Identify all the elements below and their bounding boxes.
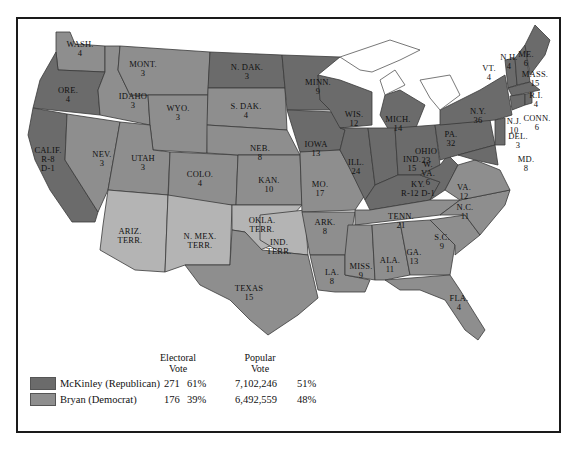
state-label: MINN. 9: [305, 78, 331, 96]
state-label: N.Y. 36: [470, 107, 486, 125]
state-label: LA. 8: [325, 268, 339, 286]
state-label: WIS. 12: [345, 110, 364, 128]
electoral-votes: 271: [164, 378, 184, 389]
democrat-swatch: [30, 393, 56, 406]
popular-votes: 6,492,559: [235, 394, 291, 405]
republican-swatch: [30, 377, 56, 390]
state-label: VA. 12: [457, 183, 471, 201]
state-label: CONN. 6: [523, 114, 550, 132]
state-label: DEL. 3: [508, 132, 527, 150]
candidate-name: McKinley (Republican): [60, 378, 164, 389]
state-label: MICH. 14: [385, 115, 410, 133]
popular-vote-header: Popular Vote: [230, 352, 290, 374]
state-label: IND. TERR.: [267, 238, 292, 256]
state-label: CALIF. R-8 D-1: [34, 146, 61, 173]
electoral-pct: 39%: [187, 394, 235, 405]
state-label: UTAH 3: [131, 154, 155, 172]
state-label: R.I. 4: [529, 91, 543, 109]
state-label: WYO. 3: [166, 104, 189, 122]
state-label: MO. 17: [312, 180, 328, 198]
electoral-votes: 176: [164, 394, 184, 405]
state-label: N. DAK. 3: [231, 63, 263, 81]
state-label: KAN. 10: [258, 176, 279, 194]
state-label: ME. 6: [518, 50, 533, 68]
state-label: IOWA 13: [305, 140, 328, 158]
state-label: NEB. 8: [250, 144, 270, 162]
state-label: PA. 32: [445, 130, 458, 148]
legend-row-bryan: Bryan (Democrat) 176 39% 6,492,559 48%: [30, 392, 316, 406]
popular-votes: 7,102,246: [235, 378, 291, 389]
state-label: ALA. 11: [380, 256, 400, 274]
state-label: MONT. 3: [129, 60, 157, 78]
popular-pct: 51%: [297, 378, 316, 389]
state-label: MISS. 9: [350, 262, 373, 280]
state-label: ARK. 8: [315, 218, 336, 236]
state-label: NEV. 3: [92, 150, 111, 168]
state-label: N. MEX. TERR.: [184, 232, 217, 250]
candidate-name: Bryan (Democrat): [60, 394, 164, 405]
state-nj: [495, 118, 505, 145]
state-label: S. DAK. 4: [231, 102, 262, 120]
state-label: MD. 8: [518, 155, 534, 173]
state-label: VT. 4: [482, 64, 495, 82]
state-label: WASH. 4: [66, 40, 93, 58]
legend-row-mckinley: McKinley (Republican) 271 61% 7,102,246 …: [30, 376, 316, 390]
state-label: N.H. 4: [500, 53, 517, 71]
state-label: ORE. 4: [58, 86, 78, 104]
popular-pct: 48%: [297, 394, 316, 405]
state-label: ARIZ. TERR.: [118, 227, 143, 245]
state-label: W. VA. 6: [421, 160, 435, 187]
state-label: COLO. 4: [187, 170, 213, 188]
state-label: TENN. 21: [388, 212, 414, 230]
state-label: IDAHO 3: [119, 92, 147, 110]
state-conn: [510, 94, 525, 110]
electoral-vote-header: Electoral Vote: [160, 352, 196, 374]
electoral-pct: 61%: [187, 378, 235, 389]
state-fla: [385, 275, 485, 340]
state-label: OKLA. TERR.: [249, 216, 276, 234]
state-label: TEXAS 15: [235, 284, 263, 302]
state-label: FLA. 4: [450, 294, 469, 312]
state-label: N.C. 11: [457, 203, 474, 221]
state-label: S.C. 9: [434, 233, 449, 251]
state-label: GA. 13: [406, 248, 421, 266]
state-label: ILL. 24: [348, 158, 364, 176]
state-label: MASS. 15: [522, 70, 548, 88]
